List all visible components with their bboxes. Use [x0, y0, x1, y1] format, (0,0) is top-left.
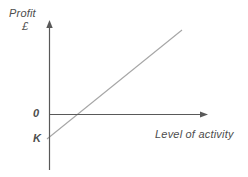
x-axis-title: Level of activity	[155, 129, 234, 140]
intercept-tick-label: K	[33, 133, 41, 144]
profit-line	[47, 30, 182, 139]
origin-tick-label: 0	[33, 108, 39, 119]
y-axis-arrow-icon	[46, 20, 52, 28]
chart-canvas	[0, 0, 248, 177]
x-axis-arrow-icon	[200, 111, 208, 117]
y-axis-unit-label: £	[22, 21, 28, 32]
profit-volume-chart: Profit £ 0 K Level of activity	[0, 0, 248, 177]
y-axis-title: Profit	[9, 8, 36, 19]
